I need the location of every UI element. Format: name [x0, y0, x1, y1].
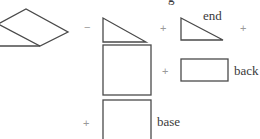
label-end: end — [203, 9, 222, 22]
parallelogram-shape — [0, 9, 68, 46]
label-back: back — [234, 64, 259, 77]
title-fragment: g — [168, 0, 175, 4]
plus-operator-4: + — [83, 118, 89, 129]
minus-operator: − — [84, 22, 90, 33]
plus-operator-1: + — [160, 23, 166, 34]
net-decomposition-diagram: g − + + + + end back base — [0, 0, 260, 139]
square-middle-shape — [103, 45, 151, 95]
label-base: base — [157, 115, 180, 128]
triangle-left-shape — [103, 18, 146, 42]
plus-operator-3: + — [162, 66, 168, 77]
square-base-shape — [103, 100, 151, 139]
rectangle-back-shape — [181, 59, 228, 81]
plus-operator-2: + — [240, 23, 246, 34]
